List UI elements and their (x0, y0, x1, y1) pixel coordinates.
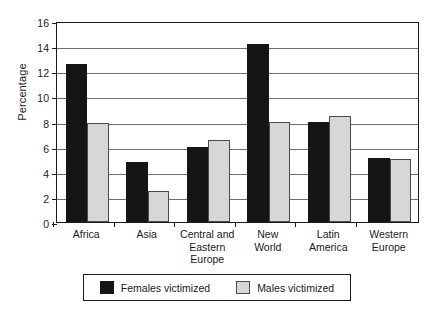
x-axis-category-line: Asia (117, 228, 178, 241)
x-axis-tick-mark (356, 222, 357, 227)
bar-females (368, 158, 390, 222)
x-axis-category-line: New (238, 228, 299, 241)
bars-layer (57, 23, 418, 222)
x-axis-category-line: Africa (56, 228, 117, 241)
bar-males (329, 116, 351, 222)
plot-area: 0246810121416 (56, 22, 419, 223)
y-axis-tick-label: 16 (37, 17, 49, 29)
x-axis-category-line: America (298, 241, 359, 254)
bar-males (148, 191, 170, 222)
x-axis-category-line: Latin (298, 228, 359, 241)
x-axis-tick-mark (235, 222, 236, 227)
bar-males (208, 140, 230, 222)
gray-swatch (236, 281, 250, 294)
legend-label: Females victimized (121, 282, 210, 294)
x-axis-category-label: Asia (117, 228, 178, 241)
bar-males (390, 159, 412, 222)
chart-legend: Females victimizedMales victimized (83, 274, 351, 301)
legend-item: Females victimized (100, 281, 210, 294)
y-axis-tick-label: 14 (37, 42, 49, 54)
x-axis-tick-mark (53, 222, 54, 227)
x-axis-category-label: NewWorld (238, 228, 299, 253)
bar-males (87, 123, 109, 222)
black-swatch (100, 281, 114, 294)
x-axis-category-line: Europe (177, 253, 238, 266)
bar-females (187, 147, 209, 222)
y-axis-tick-label: 6 (43, 143, 49, 155)
chart-figure: Percentage 0246810121416 AfricaAsiaCentr… (0, 0, 433, 313)
x-axis-category-line: Europe (359, 241, 420, 254)
legend-item: Males victimized (236, 281, 334, 294)
x-axis-category-label: WesternEurope (359, 228, 420, 253)
x-axis-tick-mark (174, 222, 175, 227)
x-axis-tick-mark (295, 222, 296, 227)
x-axis-category-label: Africa (56, 228, 117, 241)
y-axis-tick-label: 12 (37, 67, 49, 79)
x-axis-category-label: LatinAmerica (298, 228, 359, 253)
y-axis-tick-label: 0 (43, 218, 49, 230)
y-axis-tick-label: 10 (37, 92, 49, 104)
x-axis-category-line: Western (359, 228, 420, 241)
x-axis-category-label: Central andEasternEurope (177, 228, 238, 266)
bar-females (126, 162, 148, 222)
x-axis-category-line: Eastern (177, 241, 238, 254)
y-axis-title: Percentage (16, 32, 28, 152)
x-axis-tick-mark (114, 222, 115, 227)
y-axis-tick-label: 8 (43, 118, 49, 130)
x-axis-category-line: Central and (177, 228, 238, 241)
legend-label: Males victimized (257, 282, 334, 294)
y-axis-tick-label: 2 (43, 193, 49, 205)
x-axis-category-line: World (238, 241, 299, 254)
bar-females (247, 44, 269, 222)
y-axis-tick-label: 4 (43, 168, 49, 180)
bar-females (66, 64, 88, 222)
bar-females (308, 122, 330, 223)
bar-males (269, 122, 291, 223)
